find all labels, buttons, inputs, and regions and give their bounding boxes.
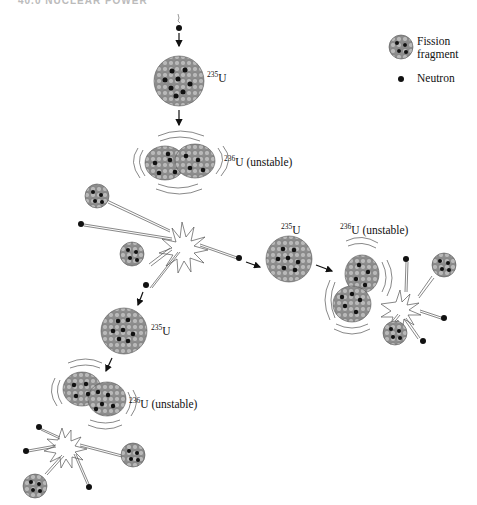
u235-nucleus-3 bbox=[101, 308, 147, 354]
element-symbol: U bbox=[351, 224, 359, 236]
u236-unstable-1 bbox=[133, 131, 228, 194]
mass-number: 235 bbox=[207, 70, 218, 79]
label-u236-1: 236U (unstable) bbox=[224, 154, 292, 168]
unstable-text: (unstable) bbox=[362, 224, 408, 236]
fission-diagram bbox=[0, 0, 477, 505]
label-u236-2: 236U (unstable) bbox=[340, 222, 408, 236]
u236-unstable-2 bbox=[325, 237, 392, 334]
incoming-neutron bbox=[176, 14, 182, 46]
label-u235-1: 235U bbox=[207, 70, 227, 84]
mass-number: 235 bbox=[151, 323, 162, 332]
unstable-text: (unstable) bbox=[246, 156, 292, 168]
element-symbol: U bbox=[162, 325, 170, 337]
legend-neutron: Neutron bbox=[417, 72, 455, 85]
element-symbol: U bbox=[140, 398, 148, 410]
element-symbol: U bbox=[235, 156, 243, 168]
u236-unstable-3 bbox=[51, 359, 136, 429]
u235-nucleus-2 bbox=[266, 236, 312, 282]
element-symbol: U bbox=[218, 72, 226, 84]
mass-number: 236 bbox=[224, 154, 235, 163]
legend-fission-fragment: Fission fragment bbox=[417, 35, 459, 61]
label-u235-2: 235U bbox=[281, 222, 301, 236]
legend-fission-line1: Fission bbox=[417, 35, 459, 48]
element-symbol: U bbox=[292, 224, 300, 236]
label-u236-3: 236U (unstable) bbox=[129, 396, 197, 410]
legend-fission-line2: fragment bbox=[417, 48, 459, 61]
fission-1 bbox=[78, 184, 260, 305]
mass-number: 236 bbox=[129, 396, 140, 405]
legend bbox=[389, 35, 413, 82]
fission-2 bbox=[381, 253, 456, 345]
neutron-icon bbox=[398, 76, 404, 82]
label-u235-3: 235U bbox=[151, 323, 171, 337]
fission-fragment-icon bbox=[389, 35, 413, 59]
unstable-text: (unstable) bbox=[151, 398, 197, 410]
u235-nucleus-1 bbox=[154, 56, 204, 106]
mass-number: 236 bbox=[340, 222, 351, 231]
mass-number: 235 bbox=[281, 222, 292, 231]
fission-3 bbox=[23, 424, 145, 498]
